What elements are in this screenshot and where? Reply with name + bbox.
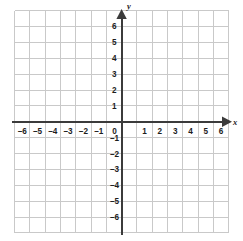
x-tick-label: –6	[18, 127, 28, 136]
x-tick-label: –5	[33, 127, 43, 136]
x-tick-label: 1	[142, 127, 147, 136]
x-tick-label: 2	[158, 127, 163, 136]
x-tick-label: 4	[188, 127, 193, 136]
x-tick-label: –3	[64, 127, 74, 136]
y-tick-label: –6	[110, 213, 120, 222]
y-tick-label: 1	[112, 102, 117, 111]
y-tick-label: –5	[110, 197, 120, 206]
coordinate-plane: x y –6 –5 –4 –3 –2 –1 1 2 3 4 5 6 0 6 5 …	[0, 0, 243, 241]
x-tick-label: –2	[79, 127, 89, 136]
x-tick-label: 6	[219, 127, 224, 136]
y-tick-label: 6	[112, 22, 117, 31]
y-tick-label: –2	[110, 150, 120, 159]
x-tick-label: 5	[204, 127, 209, 136]
y-tick-label: 5	[112, 38, 117, 47]
y-tick-label: 2	[112, 86, 117, 95]
x-tick-label: 3	[173, 127, 178, 136]
y-tick-label: –1	[110, 134, 120, 143]
x-tick-label: –4	[48, 127, 58, 136]
y-axis-name: y	[126, 1, 131, 11]
x-tick-label: –1	[94, 127, 104, 136]
y-tick-label: –3	[110, 165, 120, 174]
y-tick-label: 3	[112, 70, 117, 79]
y-tick-label: 4	[112, 54, 117, 63]
coordinate-plane-svg: x y –6 –5 –4 –3 –2 –1 1 2 3 4 5 6 0 6 5 …	[0, 0, 243, 241]
x-axis-name: x	[232, 117, 238, 127]
y-tick-label: –4	[110, 181, 120, 190]
